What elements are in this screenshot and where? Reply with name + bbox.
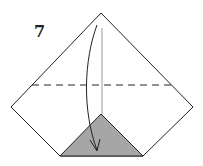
step-number: 7 [34, 22, 45, 41]
origami-diagram [0, 0, 203, 166]
